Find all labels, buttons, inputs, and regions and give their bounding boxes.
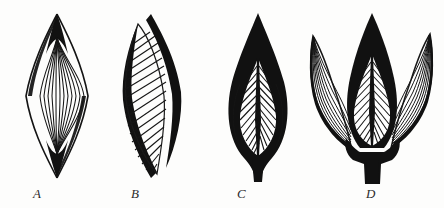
figure-plate: A B C D [0, 0, 444, 208]
figure-c-stalk [252, 160, 264, 182]
figure-a [26, 14, 88, 178]
plate-drawing [0, 0, 444, 208]
figure-label-d: D [366, 186, 376, 202]
figure-a-margin-shade-left [28, 14, 58, 96]
figure-label-a: A [33, 186, 41, 202]
figure-c [228, 13, 287, 182]
figure-d [310, 13, 433, 184]
figure-d-stalk [366, 160, 379, 184]
figure-label-c: C [237, 186, 246, 202]
figure-b [123, 14, 182, 178]
figure-label-b: B [131, 186, 139, 202]
